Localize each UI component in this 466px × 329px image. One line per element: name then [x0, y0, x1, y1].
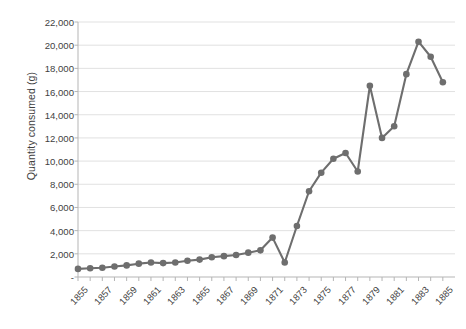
- x-axis-tick-label: 1883: [408, 284, 430, 307]
- data-point-marker[interactable]: [136, 260, 143, 267]
- data-point-marker[interactable]: [391, 123, 398, 130]
- data-point-marker[interactable]: [354, 168, 361, 175]
- data-point-marker[interactable]: [306, 188, 313, 195]
- data-point-marker[interactable]: [172, 259, 179, 266]
- data-point-marker[interactable]: [196, 256, 203, 263]
- plot-area: [0, 0, 466, 329]
- data-point-marker[interactable]: [233, 252, 240, 259]
- x-axis-tick-label: 1863: [165, 284, 187, 307]
- data-point-marker[interactable]: [403, 71, 410, 78]
- data-point-marker[interactable]: [160, 260, 167, 267]
- x-axis-tick-label: 1881: [384, 284, 406, 307]
- data-point-marker[interactable]: [87, 265, 94, 272]
- chart-container: Quantity consumed (g) 2,0004,0006,0008,0…: [0, 0, 466, 329]
- x-axis-tick-label: 1879: [360, 284, 382, 307]
- x-axis-tick-label: 1857: [92, 284, 114, 307]
- x-axis-tick-label: 1873: [287, 284, 309, 307]
- data-point-marker[interactable]: [245, 249, 252, 256]
- x-axis-tick-label: 1869: [238, 284, 260, 307]
- data-point-marker[interactable]: [269, 234, 276, 241]
- x-axis-tick-label: 1875: [311, 284, 333, 307]
- data-point-marker[interactable]: [184, 257, 191, 264]
- data-point-marker[interactable]: [415, 38, 422, 45]
- data-point-marker[interactable]: [281, 259, 288, 266]
- x-axis-tick-labels: 1855185718591861186318651867186918711873…: [0, 284, 466, 329]
- data-point-marker[interactable]: [257, 247, 264, 254]
- data-point-marker[interactable]: [367, 82, 374, 89]
- data-point-marker[interactable]: [294, 223, 301, 230]
- data-point-marker[interactable]: [330, 155, 337, 162]
- data-point-marker[interactable]: [221, 253, 228, 260]
- x-axis-tick-label: 1861: [141, 284, 163, 307]
- data-point-marker[interactable]: [99, 264, 106, 271]
- series-canvas: [0, 0, 466, 329]
- data-point-marker[interactable]: [379, 135, 386, 142]
- data-point-marker[interactable]: [318, 169, 325, 176]
- x-axis-tick-label: 1885: [433, 284, 455, 307]
- x-axis-tick-label: 1865: [189, 284, 211, 307]
- series-line: [78, 42, 443, 269]
- x-axis-tick-label: 1859: [116, 284, 138, 307]
- x-axis-tick-label: 1855: [68, 284, 90, 307]
- data-point-marker[interactable]: [208, 254, 215, 261]
- x-axis-tick-label: 1867: [214, 284, 236, 307]
- data-point-marker[interactable]: [123, 262, 130, 269]
- data-point-marker[interactable]: [440, 79, 447, 86]
- x-axis-tick-label: 1877: [335, 284, 357, 307]
- data-point-marker[interactable]: [111, 263, 118, 270]
- data-point-marker[interactable]: [342, 150, 349, 157]
- data-point-marker[interactable]: [75, 266, 82, 273]
- data-point-marker[interactable]: [148, 259, 155, 266]
- data-point-marker[interactable]: [427, 53, 434, 60]
- x-axis-tick-label: 1871: [262, 284, 284, 307]
